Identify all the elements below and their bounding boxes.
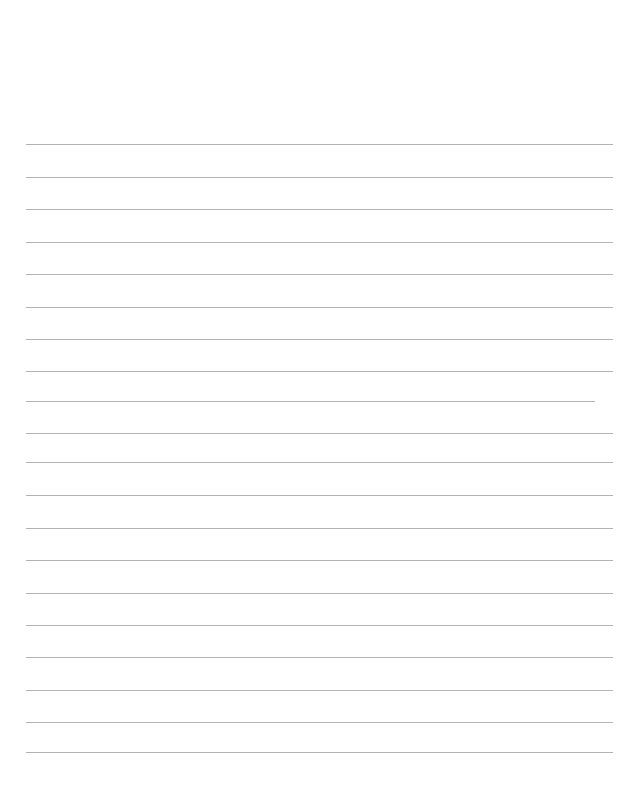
rule-line-stroke (26, 495, 613, 496)
writing-line-14[interactable] (26, 540, 613, 560)
writing-line-2[interactable] (26, 157, 613, 177)
writing-line-13[interactable] (26, 508, 613, 528)
writing-line-9[interactable] (26, 381, 595, 401)
rule-line-stroke (26, 209, 613, 210)
writing-line-18[interactable] (26, 670, 613, 690)
rule-line-stroke (26, 307, 613, 308)
writing-line-6[interactable] (26, 287, 613, 307)
rule-line-stroke (26, 560, 613, 561)
writing-line-5[interactable] (26, 254, 613, 274)
writing-line-1[interactable] (26, 124, 613, 144)
writing-line-20[interactable] (26, 732, 613, 752)
page-bottom-margin (0, 753, 641, 793)
rule-line-stroke (26, 339, 613, 340)
writing-line-4[interactable] (26, 222, 613, 242)
writing-line-17[interactable] (26, 637, 613, 657)
rule-line-stroke (26, 528, 613, 529)
rule-line-stroke (26, 242, 613, 243)
rule-line-stroke (26, 144, 613, 145)
writing-line-7[interactable] (26, 319, 613, 339)
rule-line-stroke (26, 433, 613, 434)
ruled-writing-area[interactable] (0, 0, 641, 793)
writing-line-12[interactable] (26, 475, 613, 495)
rule-line-stroke (26, 462, 613, 463)
rule-line-stroke (26, 657, 613, 658)
rule-line-stroke (26, 177, 613, 178)
rule-line-stroke (26, 625, 613, 626)
writing-line-3[interactable] (26, 189, 613, 209)
lined-paper-page (0, 0, 641, 793)
rule-line-stroke (26, 690, 613, 691)
writing-line-16[interactable] (26, 605, 613, 625)
rule-line-stroke (26, 593, 613, 594)
writing-line-10[interactable] (26, 413, 613, 433)
writing-line-15[interactable] (26, 573, 613, 593)
writing-line-8[interactable] (26, 351, 613, 371)
rule-line-stroke (26, 722, 613, 723)
writing-line-11[interactable] (26, 442, 613, 462)
rule-line-stroke (26, 274, 613, 275)
writing-line-19[interactable] (26, 702, 613, 722)
rule-line-stroke (26, 401, 595, 402)
rule-line-stroke (26, 371, 613, 372)
